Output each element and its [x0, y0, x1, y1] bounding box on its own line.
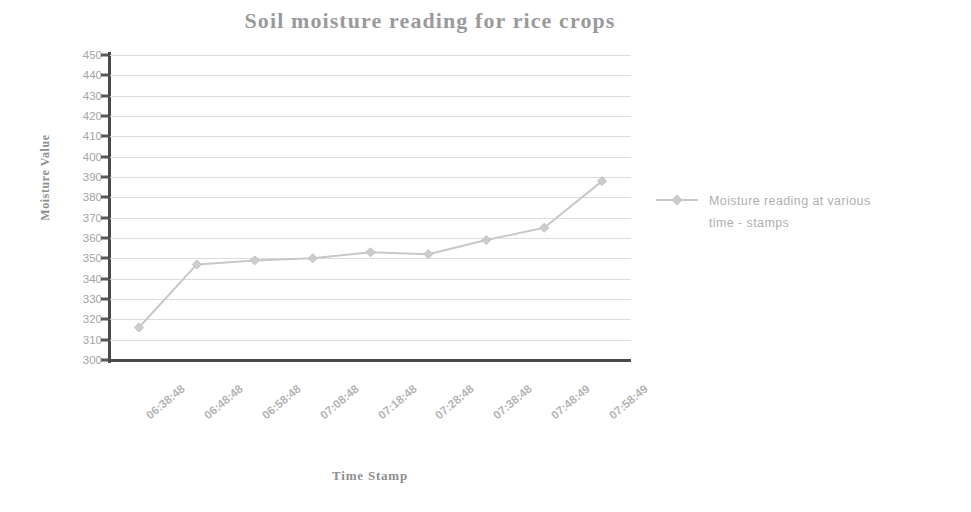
series-line-moisture: [110, 55, 631, 360]
x-tick-label: 06:48:48: [202, 382, 245, 421]
x-tick-label: 06:58:48: [260, 382, 303, 421]
x-tick-label: 07:18:48: [375, 382, 418, 421]
data-point-marker: [308, 254, 317, 263]
legend-line-marker-icon: [655, 192, 699, 208]
x-tick-label: 07:28:48: [433, 382, 476, 421]
x-tick-label: 06:38:48: [144, 382, 187, 421]
legend-label-line-2: time - stamps: [709, 216, 789, 230]
chart-title: Soil moisture reading for rice crops: [130, 8, 730, 34]
legend-entry-moisture: Moisture reading at various time - stamp…: [655, 190, 955, 234]
plot-area: [110, 55, 631, 360]
x-axis-tick-labels: 06:38:4806:48:4806:58:4807:08:4807:18:48…: [110, 365, 631, 455]
chart-legend: Moisture reading at various time - stamp…: [655, 190, 955, 234]
legend-label-line-1: Moisture reading at various: [709, 194, 871, 208]
x-tick-label: 07:48:49: [549, 382, 592, 421]
legend-label: Moisture reading at various time - stamp…: [709, 190, 871, 234]
data-point-marker: [424, 250, 433, 259]
x-tick-label: 07:08:48: [318, 382, 361, 421]
y-axis-tick-marks: [0, 55, 111, 360]
data-point-marker: [366, 248, 375, 257]
x-tick-label: 07:58:49: [607, 382, 650, 421]
x-axis-title: Time Stamp: [110, 468, 630, 484]
x-tick-label: 07:38:48: [491, 382, 534, 421]
data-point-marker: [250, 256, 259, 265]
data-point-marker: [482, 236, 491, 245]
chart-container: Soil moisture reading for rice crops Moi…: [0, 0, 971, 512]
